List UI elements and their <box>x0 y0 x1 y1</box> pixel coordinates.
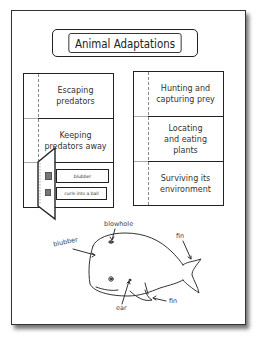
whale-back <box>93 233 183 265</box>
tail-fin-arrow <box>183 241 191 259</box>
label-ear: ear <box>116 304 127 312</box>
label-blowhole: blowhole <box>104 220 133 228</box>
whale-diagram <box>0 0 262 342</box>
label-fin-flipper: fin <box>169 297 177 305</box>
ear-arrow <box>122 281 129 304</box>
label-fin-tail: fin <box>176 232 184 240</box>
